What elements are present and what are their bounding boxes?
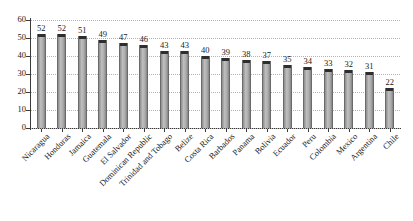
x-axis-tick (267, 129, 268, 132)
bar-cap (202, 56, 209, 59)
bar-cap (366, 72, 373, 75)
y-axis-tick (26, 38, 30, 39)
bar-slot: 39 (216, 20, 237, 128)
bar-value-label: 35 (283, 55, 292, 64)
bar-value-label: 49 (99, 30, 108, 39)
x-axis-tick (369, 129, 370, 132)
bar-slot: 43 (175, 20, 196, 128)
bar-value-label: 34 (304, 57, 313, 66)
y-axis-tick (26, 74, 30, 75)
bar-value-label: 47 (119, 33, 128, 42)
bar-cap (181, 51, 188, 54)
bar-cap (345, 70, 352, 73)
x-axis-category-labels: NicaraguaHondurasJamaicaGuatemalaEl Salv… (31, 132, 413, 221)
bar-slot: 37 (257, 20, 278, 128)
bar-cap (284, 65, 291, 68)
plot-area: 525251494746434340393837353433323122 (31, 20, 400, 128)
y-axis-tick (26, 56, 30, 57)
bar-value-label: 32 (345, 60, 354, 69)
bar[interactable] (221, 58, 230, 128)
bar-value-label: 40 (201, 46, 210, 55)
bar-value-label: 39 (222, 48, 231, 57)
bar-slot: 35 (277, 20, 298, 128)
x-axis-tick (349, 129, 350, 132)
bar-cap (79, 36, 86, 39)
bar-slot: 46 (134, 20, 155, 128)
bar-value-label: 51 (78, 26, 87, 35)
bar-cap (263, 61, 270, 64)
bar[interactable] (160, 51, 169, 128)
y-axis-tick-label: 20 (2, 87, 26, 96)
bar[interactable] (365, 72, 374, 128)
x-axis-category-label: Chile (381, 132, 400, 151)
bar-cap (222, 58, 229, 61)
y-axis-tick (26, 20, 30, 21)
bar-cap (325, 69, 332, 72)
bar-value-label: 52 (58, 24, 67, 33)
bar[interactable] (242, 60, 251, 128)
bar-value-label: 33 (324, 59, 333, 68)
y-axis-tick (26, 92, 30, 93)
bar-slot: 33 (318, 20, 339, 128)
bar-value-label: 43 (181, 41, 190, 50)
bar[interactable] (57, 34, 66, 128)
bar-slot: 52 (31, 20, 52, 128)
y-axis-tick-label: 30 (2, 69, 26, 78)
bar[interactable] (180, 51, 189, 128)
bar-value-label: 31 (365, 62, 374, 71)
bar-cap (161, 51, 168, 54)
x-axis-tick (62, 129, 63, 132)
bar-value-label: 46 (140, 35, 149, 44)
x-axis-tick (287, 129, 288, 132)
x-axis-tick (164, 129, 165, 132)
bar-value-label: 43 (160, 41, 169, 50)
y-axis-tick-labels: 0102030405060 (0, 0, 26, 221)
bar-slot: 31 (359, 20, 380, 128)
x-axis-tick (390, 129, 391, 132)
bar-slot: 34 (298, 20, 319, 128)
bar-value-label: 37 (263, 51, 272, 60)
x-axis-tick (123, 129, 124, 132)
bar[interactable] (139, 45, 148, 128)
bar-slot: 43 (154, 20, 175, 128)
bar[interactable] (201, 56, 210, 128)
x-axis-tick (226, 129, 227, 132)
bar-slot: 51 (72, 20, 93, 128)
bar[interactable] (283, 65, 292, 128)
bar-slot: 52 (52, 20, 73, 128)
bar[interactable] (262, 61, 271, 128)
x-axis-tick (41, 129, 42, 132)
bar-cap (140, 45, 147, 48)
bar-cap (38, 34, 45, 37)
bar-cap (120, 43, 127, 46)
bar-cap (99, 40, 106, 43)
bar-slot: 47 (113, 20, 134, 128)
bar-cap (386, 88, 393, 91)
bar-slot: 40 (195, 20, 216, 128)
bar[interactable] (344, 70, 353, 128)
y-axis-tick (26, 110, 30, 111)
bar-cap (304, 67, 311, 70)
bar[interactable] (119, 43, 128, 128)
x-axis-tick (103, 129, 104, 132)
bar[interactable] (324, 69, 333, 128)
y-axis-tick-label: 60 (2, 15, 26, 24)
x-axis-tick (144, 129, 145, 132)
y-axis-tick-label: 50 (2, 33, 26, 42)
x-axis-tick (246, 129, 247, 132)
bar-value-label: 22 (386, 78, 395, 87)
bar[interactable] (78, 36, 87, 128)
y-axis-tick-label: 0 (2, 123, 26, 132)
bar[interactable] (98, 40, 107, 128)
bar-slot: 49 (93, 20, 114, 128)
bar[interactable] (37, 34, 46, 128)
bar-cap (243, 60, 250, 63)
gridline (31, 128, 400, 129)
x-axis-tick (308, 129, 309, 132)
bar-slot: 38 (236, 20, 257, 128)
bar-chart: 0102030405060 52525149474643434039383735… (0, 0, 413, 221)
bar[interactable] (385, 88, 394, 128)
bar[interactable] (303, 67, 312, 128)
y-axis-tick-label: 10 (2, 105, 26, 114)
bar-value-label: 38 (242, 50, 251, 59)
